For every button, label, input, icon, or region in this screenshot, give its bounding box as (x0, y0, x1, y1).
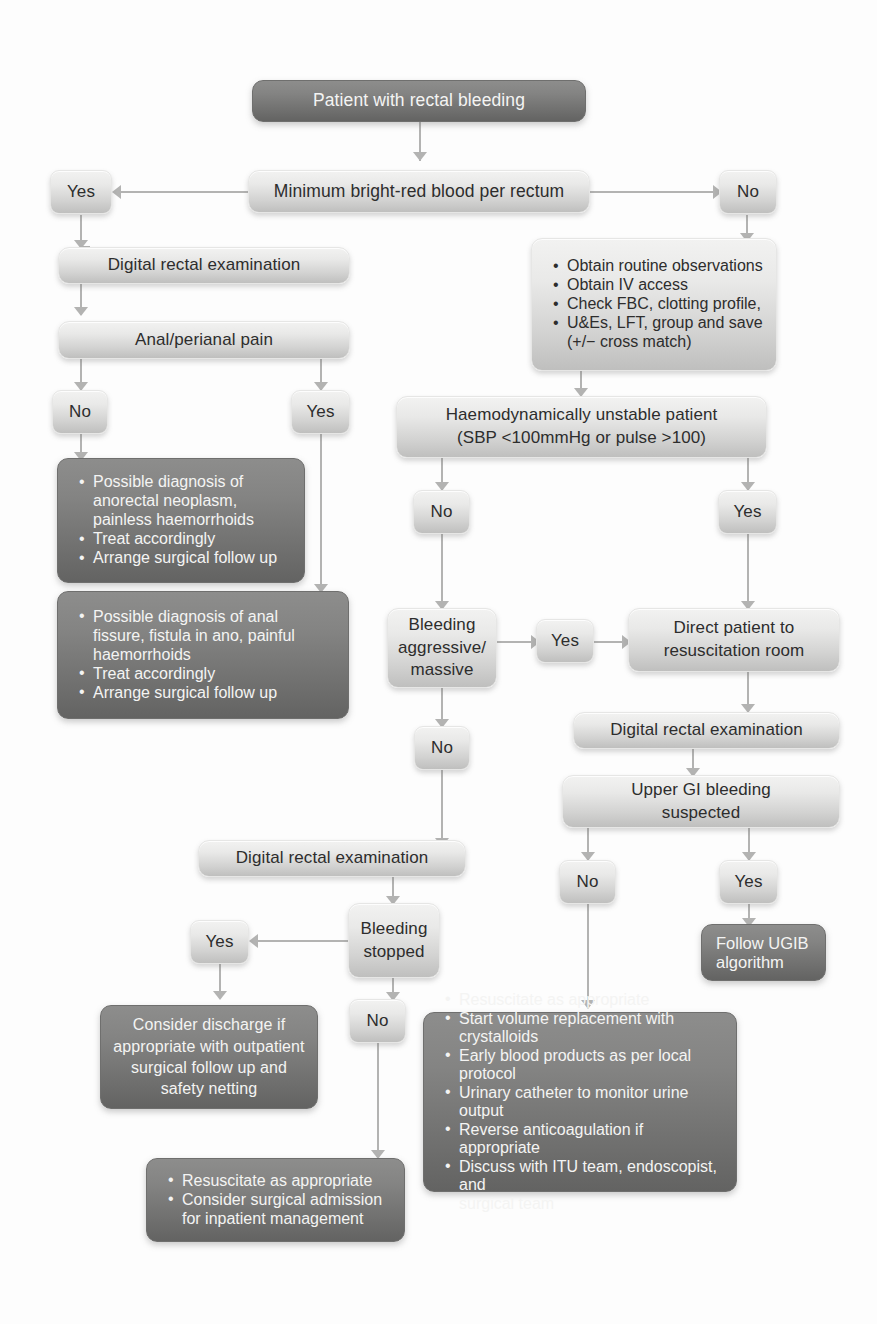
node-label-line1: Consider discharge if (133, 1014, 285, 1035)
node-label-line2: aggressive/ (398, 637, 486, 660)
bullet-continuation: for inpatient management (168, 1210, 394, 1228)
node-label-line3: surgical follow up and (131, 1057, 287, 1078)
node-label-line2: algorithm (716, 953, 815, 972)
arrowhead-down (213, 991, 227, 1000)
connector-bleeding-stopped-to-yes (255, 940, 349, 942)
pill-yes-anal-pain[interactable]: Yes (291, 390, 350, 434)
pill-label: Yes (67, 181, 95, 204)
bullet-item: Early blood products as per local protoc… (445, 1047, 726, 1083)
pill-label: Yes (306, 401, 334, 424)
connector-no-to-dre-bottom (441, 769, 443, 844)
pill-label: No (69, 401, 91, 424)
node-label-line1: Bleeding (361, 918, 428, 941)
node-minimum-bright-red-blood[interactable]: Minimum bright-red blood per rectum (248, 170, 590, 213)
connector-yes-to-fissure (320, 433, 322, 591)
node-consider-discharge[interactable]: Consider discharge if appropriate with o… (100, 1005, 318, 1109)
bullet-item: Possible diagnosis of (79, 473, 294, 491)
pill-label: No (431, 737, 453, 760)
bullet-item: Obtain routine observations (553, 257, 766, 275)
bullet-item: Treat accordingly (79, 665, 338, 683)
node-label-line1: Follow UGIB (716, 934, 815, 953)
arrowhead-down (413, 152, 427, 161)
node-label-line2: stopped (363, 941, 424, 964)
bullet-item: Possible diagnosis of anal (79, 608, 338, 626)
pill-no-minimum-blood[interactable]: No (719, 170, 777, 214)
bullet-item: Resuscitate as appropriate (445, 991, 726, 1009)
node-label-line4: safety netting (161, 1078, 258, 1099)
arrowhead-left (249, 934, 258, 948)
node-bleeding-aggressive-massive[interactable]: Bleeding aggressive/ massive (387, 608, 497, 688)
pill-label: No (431, 501, 453, 524)
node-label-line1: Direct patient to (674, 617, 795, 640)
connector-no-to-bleeding-aggressive (441, 533, 443, 608)
pill-label: No (737, 181, 759, 204)
bullet-list: Resuscitate as appropriate Start volume … (430, 991, 726, 1214)
node-label-line1: Upper GI bleeding (631, 779, 771, 802)
bullet-item: Obtain IV access (553, 276, 766, 294)
node-label: Digital rectal examination (236, 847, 429, 870)
node-label-line3: massive (410, 659, 473, 682)
node-label-line2: (SBP <100mmHg or pulse >100) (457, 427, 706, 450)
node-possible-diagnosis-fissure[interactable]: Possible diagnosis of anal fissure, fist… (57, 591, 349, 719)
node-possible-diagnosis-neoplasm[interactable]: Possible diagnosis of anorectal neoplasm… (57, 458, 305, 583)
node-label-line2: resuscitation room (664, 640, 805, 663)
pill-no-upper-gi-bleeding[interactable]: No (559, 860, 616, 904)
flowchart-canvas: Patient with rectal bleeding Minimum bri… (0, 0, 877, 1324)
connector-min-brb-to-no (590, 191, 720, 193)
node-resuscitate-surgical-admission[interactable]: Resuscitate as appropriate Consider surg… (146, 1158, 405, 1242)
bullet-list: Resuscitate as appropriate Consider surg… (153, 1172, 394, 1229)
node-label-block: Follow UGIB algorithm (716, 934, 815, 972)
node-label-line2: appropriate with outpatient (113, 1036, 304, 1057)
bullet-item: Arrange surgical follow up (79, 684, 338, 702)
node-initial-observations[interactable]: Obtain routine observations Obtain IV ac… (531, 238, 777, 371)
arrowhead-down (74, 307, 88, 316)
node-resuscitate-full-protocol[interactable]: Resuscitate as appropriate Start volume … (423, 1012, 737, 1192)
bullet-item: Discuss with ITU team, endoscopist, and (445, 1158, 726, 1194)
node-upper-gi-bleeding-suspected[interactable]: Upper GI bleeding suspected (562, 775, 840, 828)
node-label: Patient with rectal bleeding (313, 89, 525, 112)
bullet-continuation: anorectal neoplasm, (79, 492, 294, 510)
node-digital-rectal-examination-bottom[interactable]: Digital rectal examination (198, 840, 466, 877)
pill-no-haemodynamically-unstable[interactable]: No (413, 490, 470, 534)
bullet-item: Resuscitate as appropriate (168, 1172, 394, 1190)
pill-label: Yes (551, 630, 579, 653)
bullet-item: U&Es, LFT, group and save (553, 314, 766, 332)
bullet-continuation: (+/− cross match) (553, 333, 766, 351)
connector-no-to-resus-admission (377, 1029, 379, 1156)
node-haemodynamically-unstable[interactable]: Haemodynamically unstable patient (SBP <… (396, 396, 767, 458)
node-patient-with-rectal-bleeding[interactable]: Patient with rectal bleeding (252, 80, 586, 122)
node-label: Digital rectal examination (610, 719, 803, 742)
node-label: Minimum bright-red blood per rectum (274, 180, 564, 203)
bullet-item: Treat accordingly (79, 530, 294, 548)
bullet-continuation: surgical team (445, 1195, 726, 1213)
node-label: Anal/perianal pain (135, 329, 273, 352)
arrowhead-left (112, 185, 121, 199)
bullet-list: Obtain routine observations Obtain IV ac… (538, 257, 766, 352)
node-label-line2: suspected (662, 802, 740, 825)
bullet-item: Reverse anticoagulation if appropriate (445, 1121, 726, 1157)
pill-yes-upper-gi-bleeding[interactable]: Yes (719, 860, 778, 904)
pill-no-bleeding-aggressive[interactable]: No (414, 726, 470, 770)
bullet-item: Start volume replacement with crystalloi… (445, 1010, 726, 1046)
pill-yes-minimum-blood[interactable]: Yes (50, 170, 112, 214)
bullet-continuation: fissure, fistula in ano, painful (79, 627, 338, 645)
pill-label: No (577, 871, 599, 894)
pill-label: No (367, 1010, 389, 1033)
pill-yes-bleeding-stopped[interactable]: Yes (190, 920, 249, 964)
bullet-list: Possible diagnosis of anorectal neoplasm… (64, 473, 294, 568)
node-direct-patient-to-resuscitation-room[interactable]: Direct patient to resuscitation room (628, 608, 840, 672)
pill-no-bleeding-stopped[interactable]: No (349, 999, 406, 1043)
bullet-continuation: painless haemorrhoids (79, 511, 294, 529)
node-follow-ugib-algorithm[interactable]: Follow UGIB algorithm (701, 924, 826, 981)
pill-no-anal-pain[interactable]: No (52, 390, 108, 434)
pill-label: Yes (734, 871, 762, 894)
node-anal-perianal-pain[interactable]: Anal/perianal pain (58, 321, 350, 359)
pill-yes-bleeding-aggressive[interactable]: Yes (536, 619, 594, 663)
node-digital-rectal-examination-right[interactable]: Digital rectal examination (573, 712, 840, 749)
node-digital-rectal-examination-left[interactable]: Digital rectal examination (58, 247, 350, 284)
bullet-list: Possible diagnosis of anal fissure, fist… (64, 608, 338, 703)
connector-min-brb-to-yes (118, 191, 248, 193)
node-label: Digital rectal examination (108, 254, 301, 277)
pill-yes-haemodynamically-unstable[interactable]: Yes (718, 490, 777, 534)
node-bleeding-stopped[interactable]: Bleeding stopped (348, 903, 440, 978)
